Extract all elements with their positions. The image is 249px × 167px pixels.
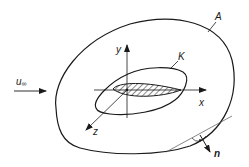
z-axis	[86, 90, 127, 130]
label-u-infinity: u∞	[16, 76, 27, 87]
label-z: z	[92, 126, 98, 137]
tangent-line	[166, 116, 232, 152]
label-y: y	[115, 44, 122, 55]
leader-k	[170, 61, 178, 69]
origin-point	[126, 89, 129, 92]
control-volume-diagram: A u∞ K x y z n	[0, 0, 249, 167]
leader-a	[208, 22, 216, 32]
label-k: K	[178, 51, 186, 62]
label-n: n	[214, 148, 220, 159]
label-a: A	[214, 11, 222, 22]
right-angle-dot	[199, 139, 201, 141]
label-x: x	[198, 97, 205, 108]
